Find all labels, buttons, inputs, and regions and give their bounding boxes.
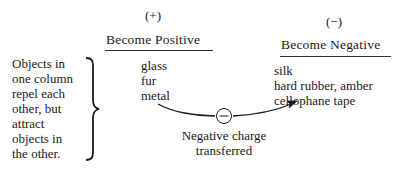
curly-brace-icon xyxy=(86,58,99,160)
transfer-caption-line: transferred xyxy=(170,143,278,158)
transfer-curve-arrow xyxy=(233,103,294,116)
transfer-caption-line: Negative charge xyxy=(170,128,278,143)
transfer-curve xyxy=(158,104,215,116)
